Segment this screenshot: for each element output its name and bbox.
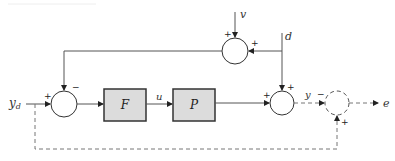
edge-feedback xyxy=(64,51,222,90)
sum-right: + + xyxy=(263,82,295,115)
reference-label: yd xyxy=(8,96,21,111)
svg-text:+: + xyxy=(44,91,52,101)
svg-text:P: P xyxy=(189,98,199,112)
svg-text:+: + xyxy=(251,38,259,48)
error-signal-label: e xyxy=(383,97,390,110)
svg-text:+: + xyxy=(224,29,232,39)
svg-text:−: − xyxy=(317,89,325,99)
svg-text:F: F xyxy=(120,98,130,112)
control-signal-label: u xyxy=(156,91,162,102)
sum-left: + − xyxy=(44,82,80,117)
svg-text:+: + xyxy=(341,117,349,127)
disturbance-input: d xyxy=(282,30,292,90)
svg-text:+: + xyxy=(263,90,271,100)
svg-text:d: d xyxy=(285,30,292,43)
svg-text:+: + xyxy=(287,82,295,92)
output-signal-label: y xyxy=(304,89,311,100)
sum-top: + + xyxy=(222,29,259,64)
noise-input: v xyxy=(235,8,247,37)
block-F: F xyxy=(104,89,146,121)
svg-text:−: − xyxy=(72,82,80,92)
sum-error: − + xyxy=(317,89,349,127)
block-diagram: yd + − F u P + + d + + v xyxy=(0,0,395,161)
svg-text:v: v xyxy=(240,8,247,21)
block-P: P xyxy=(173,89,215,121)
